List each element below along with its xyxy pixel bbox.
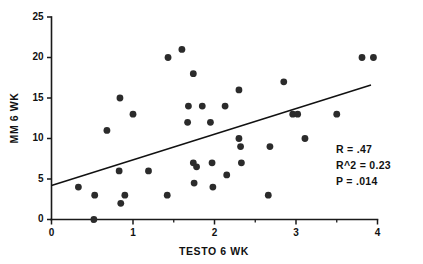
data-point [207,119,214,126]
data-point [209,184,216,191]
y-tick-label: 5 [38,173,44,184]
data-point [91,192,98,199]
data-point [191,180,198,187]
data-point [164,192,171,199]
x-tick-label: 2 [212,227,218,238]
y-tick-label: 25 [32,11,44,22]
scatter-plot-figure: 0510152025 01234 TESTO 6 WK MM 6 WK R = … [0,0,423,264]
data-point [302,135,309,142]
regression-line [52,85,371,185]
data-point [267,143,274,150]
data-point [130,111,137,118]
y-axis-tick-labels: 0510152025 [32,11,44,225]
data-point [280,78,287,85]
data-point [165,54,172,61]
y-tick-label: 10 [32,132,44,143]
data-point [184,119,191,126]
data-point [209,159,216,166]
data-points-group [75,46,377,223]
data-point [116,168,123,175]
stat-r-value: R = .47 [336,143,372,155]
x-tick-label: 3 [293,227,299,238]
data-point [193,163,200,170]
data-point [236,87,243,94]
x-tick-label: 4 [375,227,381,238]
data-point [237,143,244,150]
x-tick-label: 1 [130,227,136,238]
x-axis-title: TESTO 6 WK [179,245,249,257]
data-point [236,135,243,142]
data-point [145,168,152,175]
data-point [359,54,366,61]
data-point [104,127,111,134]
data-point [222,103,229,110]
data-point [238,159,245,166]
data-point [117,200,124,207]
data-point [199,103,206,110]
y-tick-label: 20 [32,51,44,62]
y-tick-label: 15 [32,92,44,103]
data-point [90,216,97,223]
data-point [294,111,301,118]
data-point [370,54,377,61]
data-point [185,103,192,110]
plot-canvas: 0510152025 01234 TESTO 6 WK MM 6 WK R = … [0,0,423,264]
y-tick-label: 0 [38,213,44,224]
x-tick-label: 0 [49,227,55,238]
stat-p-value: P = .014 [336,175,378,187]
data-point [117,95,124,102]
data-point [75,184,82,191]
data-point [333,111,340,118]
data-point [223,172,230,179]
y-axis-title: MM 6 WK [8,93,20,144]
data-point [265,192,272,199]
data-point [121,192,128,199]
x-axis-tick-labels: 01234 [49,227,381,238]
stat-r-squared-value: R^2 = 0.23 [336,159,391,171]
data-point [190,70,197,77]
data-point [179,46,186,53]
